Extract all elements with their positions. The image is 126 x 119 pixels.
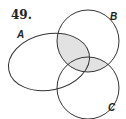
problem-number: 49. <box>11 8 32 22</box>
label-a: A <box>17 29 24 40</box>
label-c: C <box>108 102 115 113</box>
label-b: B <box>110 11 117 22</box>
